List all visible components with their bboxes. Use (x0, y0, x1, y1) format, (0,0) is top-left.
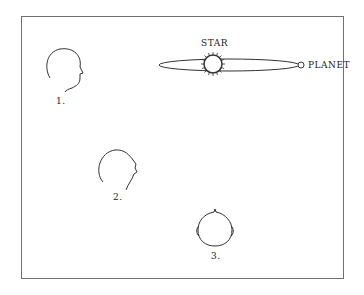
diagram-canvas (0, 0, 364, 295)
star-icon (201, 52, 225, 76)
head-3-label: 3. (211, 251, 221, 261)
head-top-view-icon (197, 209, 234, 246)
head-1-label: 1. (56, 96, 66, 106)
star-label: STAR (201, 38, 228, 48)
planet-label: PLANET (308, 60, 350, 70)
planet-icon (298, 62, 304, 68)
orbit-ellipse (159, 59, 299, 71)
head-profile-level-icon (47, 49, 83, 92)
head-2-label: 2. (113, 192, 123, 202)
head-profile-tilted-icon (99, 150, 137, 190)
